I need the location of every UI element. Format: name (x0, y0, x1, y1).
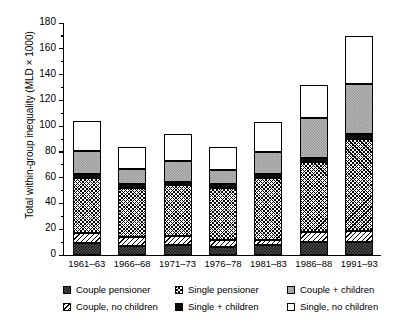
chart-legend: Couple pensionerSingle pensionerCouple +… (63, 285, 393, 319)
bar-segment (73, 243, 101, 255)
bar-segment (209, 247, 237, 255)
bar-segment (345, 134, 373, 139)
bar-segment (118, 147, 146, 169)
bar-segment (73, 121, 101, 151)
tick-mark (59, 177, 64, 178)
bar-segment (300, 232, 328, 242)
y-axis-tick-label: 0 (50, 248, 56, 259)
bar-segment (300, 158, 328, 162)
tick-mark (59, 151, 64, 152)
stacked-bar (345, 36, 373, 255)
bar-segment (300, 118, 328, 158)
bar-segment (345, 84, 373, 134)
bar-segment (118, 246, 146, 255)
x-axis-tick-label: 1966–68 (109, 258, 154, 269)
tick-mark (59, 255, 64, 256)
x-axis-tick-label: 1981–83 (246, 258, 291, 269)
bar-segment (73, 174, 101, 178)
legend-swatch-icon (63, 303, 71, 311)
legend-swatch-icon (63, 286, 71, 294)
bar-segment (164, 245, 192, 255)
bar-segment (209, 170, 237, 184)
tick-mark (61, 190, 64, 191)
legend-swatch-icon (175, 286, 183, 294)
stacked-bar (118, 147, 146, 255)
bar-segment (118, 188, 146, 237)
x-axis-tick-label: 1971–73 (155, 258, 200, 269)
legend-swatch-icon (287, 303, 295, 311)
bar-segment (164, 134, 192, 161)
tick-mark (59, 74, 64, 75)
legend-item[interactable]: Single pensioner (175, 285, 259, 295)
legend-item[interactable]: Single + children (175, 302, 259, 312)
bar-segment (118, 237, 146, 246)
tick-mark (61, 35, 64, 36)
legend-item-label: Single + children (188, 302, 259, 312)
tick-mark (61, 113, 64, 114)
bar-segment (164, 182, 192, 186)
legend-item-label: Couple + children (300, 285, 374, 295)
legend-swatch-icon (175, 303, 183, 311)
bar-segment (209, 188, 237, 240)
y-axis-tick-label: 20 (45, 222, 56, 233)
legend-item[interactable]: Couple pensioner (63, 285, 150, 295)
tick-mark (59, 48, 64, 49)
bar-segment (254, 240, 282, 245)
bar-segment (118, 184, 146, 188)
y-axis-tick-label: 60 (45, 171, 56, 182)
x-axis-tick-label: 1976–78 (200, 258, 245, 269)
bar-segment (254, 178, 282, 240)
bar-segment (164, 236, 192, 245)
tick-mark (61, 139, 64, 140)
tick-mark (61, 164, 64, 165)
stacked-bar (209, 147, 237, 255)
bar-segment (345, 231, 373, 243)
stacked-bar (73, 121, 101, 255)
stacked-bar (164, 134, 192, 255)
bar-segment (254, 152, 282, 174)
legend-item-label: Couple, no children (76, 302, 158, 312)
bar-segment (345, 242, 373, 255)
tick-mark (59, 100, 64, 101)
bar-segment (209, 184, 237, 188)
bar-segment (300, 162, 328, 232)
x-axis-tick-label: 1961–63 (64, 258, 109, 269)
y-axis-tick-label: 100 (39, 119, 56, 130)
bar-segment (254, 245, 282, 255)
bar-segment (300, 242, 328, 255)
y-axis-tick-label: 160 (39, 42, 56, 53)
bar-segment (209, 147, 237, 170)
legend-item[interactable]: Couple, no children (63, 302, 158, 312)
stacked-bar (254, 122, 282, 255)
tick-mark (59, 23, 64, 24)
y-axis-tick-label: 40 (45, 196, 56, 207)
bar-segment (300, 85, 328, 119)
legend-item-label: Single pensioner (188, 285, 259, 295)
tick-mark (61, 242, 64, 243)
plot-area: 020406080100120140160180 1961–631966–681… (63, 24, 381, 256)
tick-mark (59, 126, 64, 127)
x-axis-tick-label: 1986–88 (291, 258, 336, 269)
tick-mark (61, 61, 64, 62)
bar-segment (118, 169, 146, 184)
stacked-bar (300, 85, 328, 255)
tick-mark (59, 203, 64, 204)
bar-segment (164, 161, 192, 182)
bar-segment (254, 174, 282, 178)
y-axis-tick-label: 180 (39, 16, 56, 27)
tick-mark (59, 229, 64, 230)
tick-mark (61, 216, 64, 217)
y-axis-tick-label: 120 (39, 93, 56, 104)
legend-item[interactable]: Couple + children (287, 285, 374, 295)
bar-segment (254, 122, 282, 152)
legend-item[interactable]: Single, no children (287, 302, 378, 312)
y-axis-tick-label: 80 (45, 145, 56, 156)
tick-mark (61, 87, 64, 88)
y-axis-title: Total within-group inequality (MLD × 100… (23, 9, 37, 241)
bar-segment (345, 36, 373, 84)
chart-figure: Total within-group inequality (MLD × 100… (0, 0, 399, 334)
legend-item-label: Couple pensioner (76, 285, 150, 295)
legend-swatch-icon (287, 286, 295, 294)
legend-item-label: Single, no children (300, 302, 378, 312)
bar-segment (73, 151, 101, 174)
